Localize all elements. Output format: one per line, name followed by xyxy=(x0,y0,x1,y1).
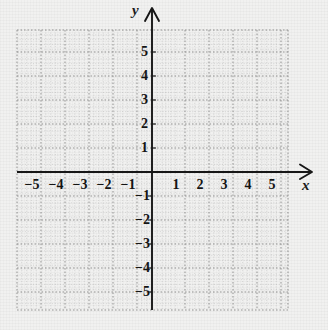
y-tick-label: −3 xyxy=(124,237,150,251)
y-axis-label: y xyxy=(132,3,139,18)
x-tick-label: 3 xyxy=(212,178,236,192)
x-axis-label: x xyxy=(302,178,310,193)
x-tick-label: −2 xyxy=(92,178,116,192)
plot-area: y x −5−4−3−2−112345 54321−1−2−3−4−5 xyxy=(0,0,328,330)
y-tick-label: −1 xyxy=(124,189,150,203)
x-tick-label: 1 xyxy=(164,178,188,192)
y-tick-label: −4 xyxy=(124,261,150,275)
x-tick-label: −4 xyxy=(44,178,68,192)
y-tick-label: 5 xyxy=(122,45,148,59)
y-tick-label: 2 xyxy=(122,117,148,131)
x-tick-label: 4 xyxy=(236,178,260,192)
x-tick-label: −5 xyxy=(20,178,44,192)
y-tick-label: 4 xyxy=(122,69,148,83)
x-tick-label: 2 xyxy=(188,178,212,192)
y-tick-label: −5 xyxy=(124,285,150,299)
grid-and-axes xyxy=(0,0,328,330)
x-tick-label: −3 xyxy=(68,178,92,192)
y-tick-label: 3 xyxy=(122,93,148,107)
y-tick-label: 1 xyxy=(122,141,148,155)
coordinate-plane-figure: y x −5−4−3−2−112345 54321−1−2−3−4−5 xyxy=(0,0,328,330)
x-tick-label: 5 xyxy=(260,178,284,192)
y-tick-label: −2 xyxy=(124,213,150,227)
